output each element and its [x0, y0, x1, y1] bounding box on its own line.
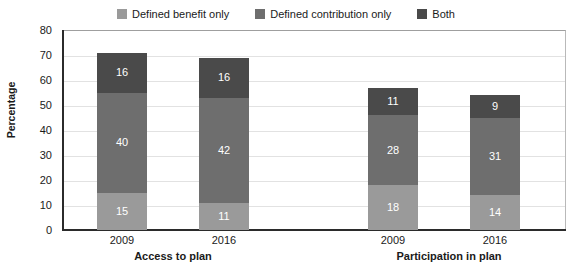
legend-swatch-both: [417, 9, 427, 19]
bar-segment-both: 16: [199, 58, 249, 98]
group-label-participation-in-plan: Participation in plan: [374, 250, 524, 263]
legend-item-defined-contribution-only: Defined contribution only: [255, 8, 391, 20]
bar-segment-defined-benefit-only: 11: [199, 203, 249, 231]
bar-access-2009[interactable]: 16 40 15: [97, 53, 147, 231]
legend-swatch-defined-contribution-only: [255, 9, 265, 19]
bar-participation-2016[interactable]: 9 31 14: [470, 95, 520, 230]
y-tick-10: 10: [40, 200, 52, 211]
x-tick-participation-2009: 2009: [363, 234, 423, 247]
y-tick-60: 60: [40, 75, 52, 86]
bar-segment-defined-benefit-only: 14: [470, 195, 520, 230]
bar-segment-value: 40: [116, 137, 128, 148]
y-tick-30: 30: [40, 150, 52, 161]
bar-segment-both: 9: [470, 95, 520, 118]
chart-bars: 16 40 15 16 42 11 11 28 18: [62, 30, 566, 230]
bar-segment-value: 31: [489, 151, 501, 162]
y-tick-20: 20: [40, 175, 52, 186]
bar-segment-defined-benefit-only: 18: [368, 185, 418, 230]
y-axis-ticks: 80 70 60 50 40 30 20 10 0: [0, 30, 58, 230]
bar-segment-defined-contribution-only: 42: [199, 98, 249, 203]
bar-segment-value: 28: [387, 145, 399, 156]
bar-segment-value: 9: [492, 101, 498, 112]
bar-segment-value: 16: [116, 67, 128, 78]
y-tick-0: 0: [46, 225, 52, 236]
legend-swatch-defined-benefit-only: [117, 9, 127, 19]
x-axis-ticks: 2009 2016 2009 2016: [62, 234, 566, 250]
bar-segment-both: 11: [368, 88, 418, 116]
group-label-access-to-plan: Access to plan: [113, 250, 233, 263]
legend-item-both: Both: [417, 8, 455, 20]
y-tick-50: 50: [40, 100, 52, 111]
bar-segment-value: 11: [387, 96, 398, 107]
chart-legend: Defined benefit only Defined contributio…: [0, 4, 572, 24]
y-tick-80: 80: [40, 25, 52, 36]
legend-item-defined-benefit-only: Defined benefit only: [117, 8, 229, 20]
legend-label-both: Both: [432, 8, 455, 20]
bar-segment-value: 42: [218, 145, 230, 156]
bar-segment-value: 14: [489, 207, 501, 218]
bar-segment-defined-contribution-only: 31: [470, 118, 520, 196]
y-tick-70: 70: [40, 50, 52, 61]
bar-access-2016[interactable]: 16 42 11: [199, 58, 249, 231]
bar-segment-value: 16: [218, 72, 230, 83]
y-tick-40: 40: [40, 125, 52, 136]
bar-segment-defined-contribution-only: 40: [97, 93, 147, 193]
bar-segment-defined-benefit-only: 15: [97, 193, 147, 231]
bar-segment-value: 18: [387, 202, 399, 213]
bar-segment-defined-contribution-only: 28: [368, 115, 418, 185]
x-tick-access-2009: 2009: [92, 234, 152, 247]
x-axis-group-labels: Access to plan Participation in plan: [62, 250, 566, 266]
legend-label-defined-contribution-only: Defined contribution only: [270, 8, 391, 20]
bar-segment-value: 15: [116, 206, 128, 217]
x-tick-participation-2016: 2016: [465, 234, 525, 247]
bar-participation-2009[interactable]: 11 28 18: [368, 88, 418, 231]
legend-label-defined-benefit-only: Defined benefit only: [132, 8, 229, 20]
x-tick-access-2016: 2016: [194, 234, 254, 247]
bar-segment-value: 11: [218, 211, 229, 222]
bar-segment-both: 16: [97, 53, 147, 93]
